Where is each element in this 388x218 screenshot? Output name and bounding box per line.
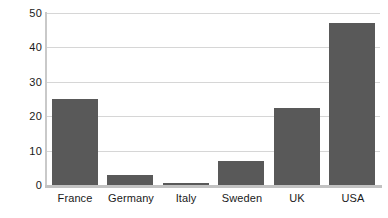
y-tick-label-10: 10 bbox=[2, 146, 42, 157]
x-tick-label-uk: UK bbox=[269, 192, 325, 205]
x-tick-label-usa: USA bbox=[325, 192, 381, 205]
y-tick-label-30: 30 bbox=[2, 77, 42, 88]
y-tick-label-50: 50 bbox=[2, 8, 42, 19]
x-tick-label-sweden: Sweden bbox=[214, 192, 270, 205]
bar-sweden bbox=[218, 161, 264, 185]
bar-chart: 50 40 30 20 10 0 France Germany Italy Sw… bbox=[0, 0, 388, 218]
x-tick-label-france: France bbox=[47, 192, 103, 205]
x-axis-tick-labels: France Germany Italy Sweden UK USA bbox=[47, 192, 380, 212]
bar-uk bbox=[274, 108, 320, 185]
bars-layer bbox=[47, 13, 380, 185]
x-tick-label-germany: Germany bbox=[103, 192, 159, 205]
x-tick-label-italy: Italy bbox=[158, 192, 214, 205]
bar-france bbox=[52, 99, 98, 185]
y-axis-tick-labels: 50 40 30 20 10 0 bbox=[0, 0, 42, 218]
y-tick-label-0: 0 bbox=[2, 180, 42, 191]
y-tick-label-20: 20 bbox=[2, 111, 42, 122]
y-tick-label-40: 40 bbox=[2, 42, 42, 53]
bar-germany bbox=[107, 175, 153, 185]
bar-usa bbox=[329, 23, 375, 185]
x-axis-line bbox=[45, 185, 382, 188]
